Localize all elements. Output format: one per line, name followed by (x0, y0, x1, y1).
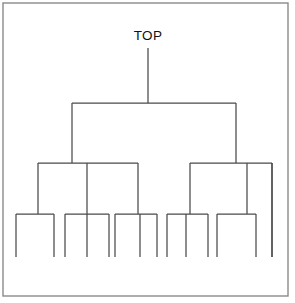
root-node-label: TOP (134, 28, 163, 43)
tree-diagram-figure: TOP (0, 0, 295, 303)
diagram-frame (3, 3, 288, 296)
tree-diagram-canvas: TOP (0, 0, 295, 303)
